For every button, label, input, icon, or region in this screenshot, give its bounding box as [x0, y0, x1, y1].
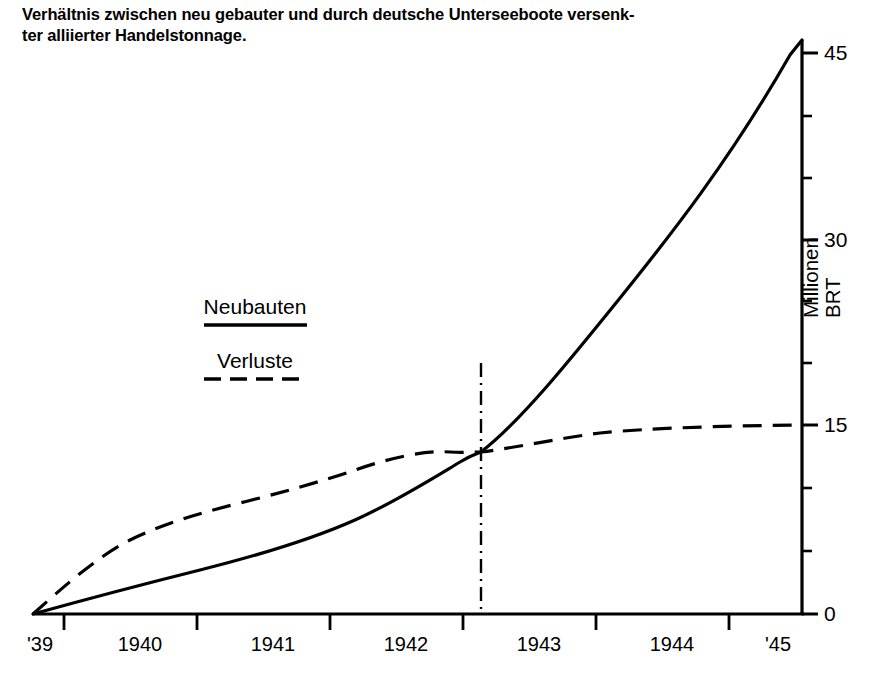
- y-tick-label-15: 15: [824, 414, 847, 435]
- x-tick-label-1939: '39: [10, 634, 70, 654]
- x-tick-label-1942: 1942: [366, 634, 446, 654]
- legend-label-verluste: Verluste: [150, 350, 360, 372]
- x-tick-label-1944: 1944: [632, 634, 712, 654]
- series-line-neubauten: [33, 40, 802, 614]
- y-major-ticks: [802, 53, 818, 614]
- legend-swatch-solid-line: [203, 322, 308, 328]
- chart-legend: Neubauten Verluste: [150, 296, 360, 394]
- x-tick-label-1940: 1940: [100, 634, 180, 654]
- x-axis-ticks: [64, 614, 729, 630]
- chart-figure: Verhältnis zwischen neu gebauter und dur…: [0, 0, 875, 677]
- y-tick-label-0: 0: [824, 603, 836, 624]
- legend-entry-neubauten: Neubauten: [150, 296, 360, 328]
- x-tick-label-1941: 1941: [233, 634, 313, 654]
- y-tick-label-45: 45: [824, 42, 847, 63]
- y-axis-title-line2: BRT: [821, 277, 844, 318]
- x-tick-label-1943: 1943: [499, 634, 579, 654]
- legend-swatch-dashed-line: [203, 376, 308, 382]
- y-axis-title: MillionenBRT: [800, 168, 840, 318]
- series-line-verluste: [33, 425, 800, 614]
- legend-entry-verluste: Verluste: [150, 350, 360, 382]
- x-tick-label-1945: '45: [748, 634, 808, 654]
- plot-area: [0, 0, 875, 677]
- y-axis-title-line1: Millionen: [799, 237, 822, 318]
- legend-label-neubauten: Neubauten: [150, 296, 360, 318]
